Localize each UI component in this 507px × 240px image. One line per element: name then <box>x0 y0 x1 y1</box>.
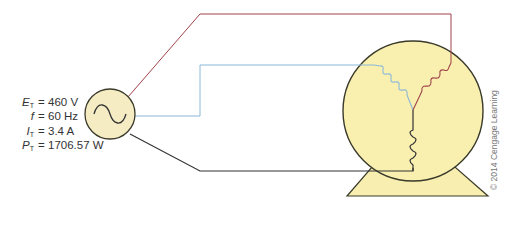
copyright-notice: © 2014 Cengage Learning <box>489 90 499 190</box>
blue-wire <box>135 65 374 116</box>
power-value: 1706.57 W <box>48 138 104 152</box>
voltage-value: 460 V <box>48 95 78 109</box>
current-value: 3.4 A <box>48 124 74 138</box>
frequency-value: 60 Hz <box>48 109 78 123</box>
